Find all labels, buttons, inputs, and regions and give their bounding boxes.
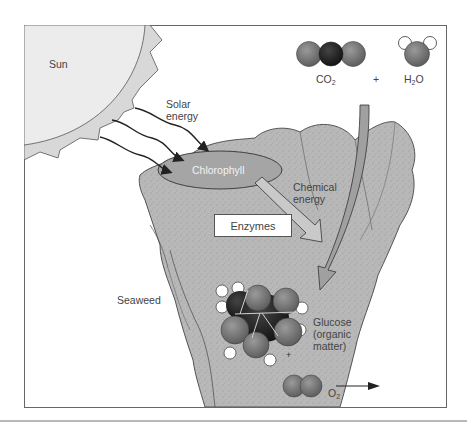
photosynthesis-diagram: + Sun Solar energy Chlorophyll Chemical … [0, 0, 467, 426]
chemical-energy-label-line1: Chemical [293, 181, 337, 193]
svg-text:+: + [286, 350, 291, 360]
co2-subscript: 2 [332, 79, 336, 86]
solar-energy-label-line2: energy [166, 110, 198, 122]
co2-base: CO [316, 73, 332, 85]
o2-subscript: 2 [336, 393, 340, 400]
glucose-label-line2: (organic [313, 328, 352, 340]
co2-formula: CO2 [316, 73, 336, 89]
chemical-energy-label: Chemical energy [293, 181, 337, 205]
enzymes-label: Enzymes [230, 220, 275, 232]
h2o-formula: H2O [404, 73, 424, 89]
diagram-artwork: + [0, 0, 467, 426]
h2o-o: O [416, 73, 424, 85]
o2-formula: O2 [328, 387, 340, 403]
chlorophyll-label: Chlorophyll [192, 164, 245, 176]
solar-energy-label-line1: Solar [166, 98, 198, 110]
co2-molecule-icon [297, 42, 366, 67]
bottom-divider [0, 420, 467, 422]
seaweed-label: Seaweed [117, 294, 161, 306]
o2-base: O [328, 387, 336, 399]
glucose-label: Glucose (organic matter) [313, 316, 352, 352]
solar-energy-label: Solar energy [166, 98, 198, 122]
glucose-label-line1: Glucose [313, 316, 352, 328]
chemical-energy-label-line2: energy [293, 193, 337, 205]
sun-label: Sun [49, 58, 68, 70]
enzymes-box: Enzymes [214, 214, 292, 237]
reactants-plus-sign: + [373, 73, 379, 85]
glucose-label-line3: matter) [313, 340, 352, 352]
h2o-h: H [404, 73, 412, 85]
